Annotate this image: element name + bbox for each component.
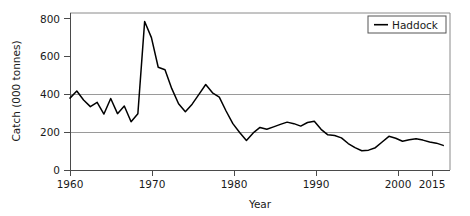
legend: Haddock: [368, 16, 446, 33]
x-tick-label-1970: 1970: [139, 178, 166, 190]
y-tick-label-400: 400: [40, 88, 60, 100]
line-chart: 800 600 400 200 0 1960 1970 1980 1990 20…: [0, 0, 470, 216]
x-tick-label-1990: 1990: [303, 178, 330, 190]
x-tick-label-2000: 2000: [385, 178, 412, 190]
x-tick-label-2015: 2015: [419, 178, 446, 190]
y-axis-ticks: [64, 19, 70, 171]
y-axis-title: Catch (000 tonnes): [10, 40, 22, 141]
legend-label-haddock: Haddock: [392, 19, 439, 31]
y-tick-label-600: 600: [40, 50, 60, 62]
y-tick-label-800: 800: [40, 13, 60, 25]
plot-area-background: [70, 13, 450, 170]
y-axis-tick-labels: 800 600 400 200 0: [40, 13, 60, 177]
chart-figure: 800 600 400 200 0 1960 1970 1980 1990 20…: [0, 0, 470, 216]
x-tick-label-1960: 1960: [57, 178, 84, 190]
x-axis-title: Year: [248, 198, 272, 210]
y-tick-label-200: 200: [40, 126, 60, 138]
x-axis-ticks: [70, 170, 432, 176]
x-axis-tick-labels: 1960 1970 1980 1990 2000 2015: [57, 178, 446, 190]
y-tick-label-0: 0: [53, 164, 60, 176]
x-tick-label-1980: 1980: [221, 178, 248, 190]
